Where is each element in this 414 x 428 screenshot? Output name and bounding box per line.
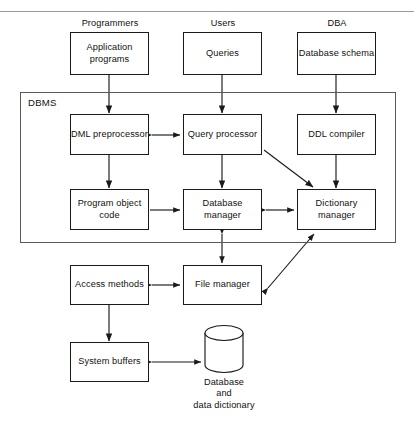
node-label: Queries bbox=[184, 48, 261, 59]
node-label: File manager bbox=[184, 279, 261, 290]
node-label: DML preprocessor bbox=[71, 129, 148, 140]
node-dml-preprocessor[interactable]: DML preprocessor bbox=[70, 114, 149, 155]
node-system-buffers[interactable]: System buffers bbox=[70, 342, 149, 382]
node-label: DDL compiler bbox=[298, 129, 375, 140]
actor-label-dba: DBA bbox=[297, 18, 377, 29]
node-label: System buffers bbox=[71, 356, 148, 367]
node-access-methods[interactable]: Access methods bbox=[70, 265, 149, 305]
node-program-object-code[interactable]: Program object code bbox=[70, 189, 149, 230]
diagram-canvas: Programmers Users DBA Application progra… bbox=[0, 0, 414, 428]
node-application-programs[interactable]: Application programs bbox=[70, 32, 149, 75]
node-label: Program object code bbox=[71, 198, 148, 221]
node-database-manager[interactable]: Database manager bbox=[183, 189, 262, 230]
actor-label-users: Users bbox=[183, 18, 263, 29]
node-dictionary-manager[interactable]: Dictionary manager bbox=[297, 189, 376, 230]
actor-label-programmers: Programmers bbox=[69, 18, 151, 29]
database-cylinder-shape bbox=[205, 326, 243, 373]
node-label: Dictionary manager bbox=[298, 198, 375, 221]
node-label: Database manager bbox=[184, 198, 261, 221]
node-label: Application programs bbox=[71, 42, 148, 65]
node-label: Query processor bbox=[184, 129, 261, 140]
node-label: Database schema bbox=[298, 48, 375, 59]
dbms-group-label: DBMS bbox=[27, 97, 58, 108]
database-store-label: Database and data dictionary bbox=[174, 377, 274, 411]
node-file-manager[interactable]: File manager bbox=[183, 265, 262, 305]
node-ddl-compiler[interactable]: DDL compiler bbox=[297, 114, 376, 155]
node-queries[interactable]: Queries bbox=[183, 32, 262, 75]
node-label: Access methods bbox=[71, 279, 148, 290]
node-database-schema[interactable]: Database schema bbox=[297, 32, 376, 75]
node-query-processor[interactable]: Query processor bbox=[183, 114, 262, 155]
